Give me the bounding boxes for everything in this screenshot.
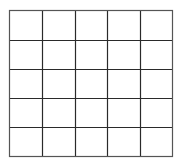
- grid-cell: [10, 98, 43, 127]
- grid-cell: [42, 98, 75, 127]
- grid-cell: [42, 40, 75, 69]
- grid-cell: [107, 98, 140, 127]
- grid-cell: [10, 127, 43, 156]
- grid-cell: [10, 69, 43, 98]
- grid-cell: [10, 40, 43, 69]
- grid-cell: [140, 11, 173, 40]
- grid-cell: [140, 98, 173, 127]
- grid-cell: [75, 98, 108, 127]
- grid-cell: [75, 40, 108, 69]
- grid-cell: [75, 11, 108, 40]
- grid-cell: [75, 127, 108, 156]
- grid-cell: [42, 69, 75, 98]
- grid-cell: [75, 69, 108, 98]
- grid-cell: [107, 127, 140, 156]
- grid-diagram: [0, 0, 180, 161]
- grid-cell: [140, 127, 173, 156]
- grid-cell: [107, 69, 140, 98]
- grid-cell: [42, 127, 75, 156]
- grid-cell: [10, 11, 43, 40]
- grid-cell: [107, 40, 140, 69]
- grid-cell: [42, 11, 75, 40]
- grid-cell: [140, 69, 173, 98]
- grid-cell: [140, 40, 173, 69]
- grid-cell: [107, 11, 140, 40]
